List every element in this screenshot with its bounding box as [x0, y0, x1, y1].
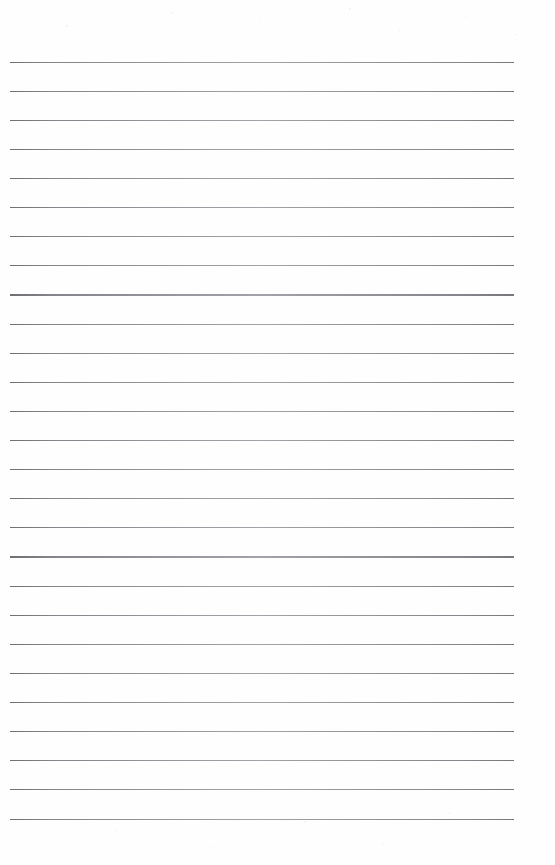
rule-line: [10, 411, 514, 412]
rule-line: [10, 236, 514, 237]
notebook-page: [0, 0, 555, 865]
rule-line: [10, 615, 514, 616]
rule-line: [10, 91, 514, 92]
paper-grain-overlay: [0, 0, 555, 865]
rule-line: [10, 731, 514, 732]
rule-line: [10, 353, 514, 354]
rule-line: [10, 819, 514, 820]
rule-line: [10, 62, 514, 63]
rule-line: [10, 498, 514, 499]
rule-line: [10, 644, 514, 645]
rule-line: [10, 789, 514, 790]
rule-line: [10, 294, 514, 295]
rule-line: [10, 324, 514, 325]
rule-line: [10, 440, 514, 441]
rule-line: [10, 120, 514, 121]
rule-line: [10, 586, 514, 587]
rule-line: [10, 382, 514, 383]
rule-line: [10, 527, 514, 528]
rule-line: [10, 469, 514, 470]
rule-line: [10, 265, 514, 266]
rule-line: [10, 556, 514, 557]
rule-line: [10, 207, 514, 208]
rule-line: [10, 673, 514, 674]
rule-line: [10, 178, 514, 179]
rule-line: [10, 760, 514, 761]
rule-line: [10, 702, 514, 703]
rule-line: [10, 149, 514, 150]
